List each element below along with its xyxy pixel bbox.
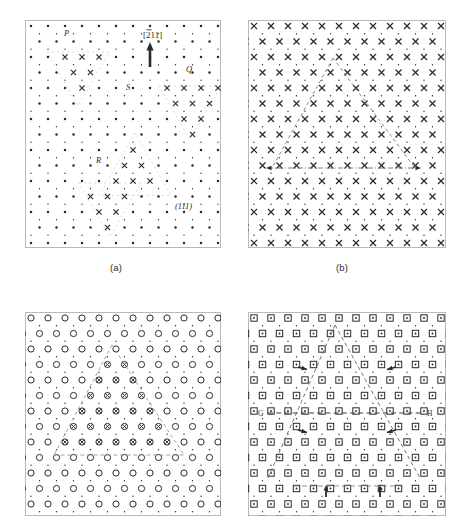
lattice-dot bbox=[55, 133, 58, 136]
square-with-dot-marker bbox=[421, 346, 427, 352]
open-circle-marker bbox=[164, 377, 170, 383]
lattice-subdot bbox=[330, 387, 331, 388]
lattice-subdot bbox=[209, 157, 210, 158]
lattice-subdot bbox=[253, 403, 254, 404]
square-center-dot bbox=[355, 472, 357, 474]
circle-with-x-marker bbox=[79, 408, 85, 414]
square-center-dot bbox=[313, 333, 315, 335]
lattice-subdot bbox=[440, 49, 441, 50]
lattice-subdot bbox=[253, 434, 254, 435]
open-circle-marker bbox=[53, 392, 59, 398]
cross-x-marker bbox=[421, 85, 427, 91]
lattice-subdot bbox=[262, 95, 263, 96]
cross-x-marker bbox=[251, 147, 257, 153]
lattice-dot bbox=[98, 180, 101, 183]
lattice-subdot bbox=[158, 449, 159, 450]
lattice-dot bbox=[200, 56, 203, 59]
cross-x-marker bbox=[404, 116, 410, 122]
lattice-dot bbox=[132, 211, 135, 214]
cross-x-marker bbox=[404, 147, 410, 153]
cross-x-marker bbox=[396, 39, 402, 45]
lattice-subdot bbox=[166, 403, 167, 404]
lattice-subdot bbox=[415, 449, 416, 450]
open-circle-marker bbox=[36, 361, 42, 367]
lattice-subdot bbox=[423, 80, 424, 81]
lattice-subdot bbox=[262, 157, 263, 158]
lattice-subdot bbox=[372, 496, 373, 497]
square-center-dot bbox=[287, 410, 289, 412]
lattice-subdot bbox=[296, 157, 297, 158]
square-with-dot-marker bbox=[429, 423, 435, 429]
lattice-subdot bbox=[440, 341, 441, 342]
square-center-dot bbox=[398, 364, 400, 366]
lattice-subdot bbox=[39, 418, 40, 419]
lattice-subdot bbox=[253, 173, 254, 174]
square-center-dot bbox=[398, 333, 400, 335]
lattice-subdot bbox=[175, 33, 176, 34]
cross-x-marker bbox=[285, 240, 291, 246]
cross-x-marker bbox=[421, 23, 427, 29]
square-center-dot bbox=[313, 488, 315, 490]
cross-x-marker bbox=[302, 116, 308, 122]
lattice-dot bbox=[217, 180, 220, 183]
lattice-subdot bbox=[141, 356, 142, 357]
square-center-dot bbox=[313, 426, 315, 428]
square-with-dot-marker bbox=[378, 361, 384, 367]
lattice-subdot bbox=[39, 157, 40, 158]
square-with-dot-marker bbox=[353, 315, 359, 321]
lattice-subdot bbox=[175, 157, 176, 158]
lattice-subdot bbox=[115, 111, 116, 112]
lattice-subdot bbox=[166, 80, 167, 81]
circle-with-x-marker bbox=[113, 377, 119, 383]
cross-x-marker bbox=[379, 101, 385, 107]
cross-x-marker bbox=[413, 194, 419, 200]
lattice-subdot bbox=[132, 204, 133, 205]
cross-x-marker bbox=[88, 70, 93, 75]
square-center-dot bbox=[262, 333, 264, 335]
lattice-subdot bbox=[64, 235, 65, 236]
lattice-dot bbox=[38, 102, 41, 105]
open-circle-marker bbox=[172, 485, 178, 491]
lattice-subdot bbox=[423, 341, 424, 342]
cross-x-marker bbox=[430, 225, 436, 231]
cross-x-marker bbox=[248, 39, 249, 45]
cross-x-marker bbox=[319, 240, 325, 246]
lattice-subdot bbox=[287, 403, 288, 404]
lattice-subdot bbox=[304, 465, 305, 466]
lattice-subdot bbox=[47, 496, 48, 497]
lattice-subdot bbox=[262, 418, 263, 419]
lattice-dot bbox=[72, 40, 75, 43]
lattice-subdot bbox=[279, 387, 280, 388]
lattice-subdot bbox=[330, 356, 331, 357]
open-circle-marker bbox=[25, 485, 26, 491]
lattice-subdot bbox=[124, 480, 125, 481]
lattice-subdot bbox=[287, 49, 288, 50]
lattice-subdot bbox=[39, 449, 40, 450]
square-center-dot bbox=[398, 457, 400, 459]
lattice-subdot bbox=[423, 235, 424, 236]
cross-x-marker bbox=[370, 147, 376, 153]
lattice-subdot bbox=[64, 465, 65, 466]
lattice-subdot bbox=[166, 496, 167, 497]
cross-x-marker bbox=[396, 101, 402, 107]
lattice-subdot bbox=[270, 235, 271, 236]
square-center-dot bbox=[287, 441, 289, 443]
lattice-subdot bbox=[107, 418, 108, 419]
lattice-dot bbox=[115, 87, 118, 90]
lattice-subdot bbox=[141, 418, 142, 419]
lattice-subdot bbox=[253, 142, 254, 143]
cross-x-marker bbox=[387, 116, 393, 122]
lattice-dot bbox=[132, 118, 135, 121]
lattice-dot bbox=[30, 211, 33, 214]
lattice-dot bbox=[191, 195, 194, 198]
square-center-dot bbox=[440, 441, 442, 443]
lattice-subdot bbox=[440, 80, 441, 81]
lattice-subdot bbox=[217, 80, 218, 81]
lattice-subdot bbox=[296, 325, 297, 326]
lattice-dot bbox=[183, 211, 186, 214]
lattice-subdot bbox=[270, 111, 271, 112]
square-with-dot-marker bbox=[370, 346, 376, 352]
lattice-subdot bbox=[141, 219, 142, 220]
panel-d: GH bbox=[248, 312, 446, 516]
square-with-dot-marker bbox=[319, 315, 325, 321]
